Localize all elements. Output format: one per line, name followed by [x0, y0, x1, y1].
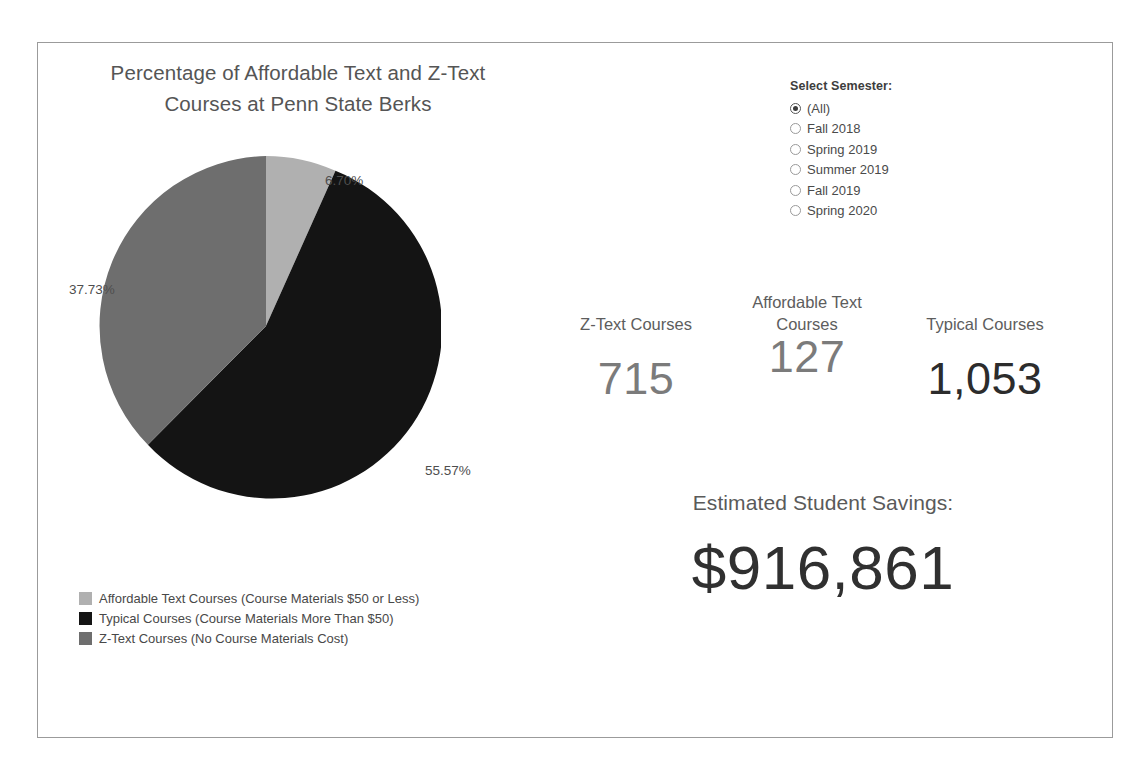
semester-radio-label: Fall 2019: [807, 183, 860, 198]
legend-swatch-icon: [79, 612, 92, 625]
pie-chart-panel: 6.70% 37.73% 55.57%: [38, 143, 558, 563]
semester-radio-label: Spring 2020: [807, 203, 877, 218]
legend-swatch-icon: [79, 632, 92, 645]
legend: Affordable Text Courses (Course Material…: [79, 589, 419, 649]
estimated-student-savings: Estimated Student Savings: $916,861: [538, 491, 1108, 607]
legend-label: Typical Courses (Course Materials More T…: [99, 611, 394, 626]
kpi-typical-courses: Typical Courses 1,053: [890, 313, 1080, 407]
semester-radio-label: Spring 2019: [807, 142, 877, 157]
kpi-value: 1,053: [890, 351, 1080, 407]
kpi-label: Z-Text Courses: [548, 313, 724, 335]
pie-label-z-text: 37.73%: [69, 282, 115, 297]
legend-label: Affordable Text Courses (Course Material…: [99, 591, 419, 606]
semester-radio-label: Summer 2019: [807, 162, 889, 177]
pie-label-typical: 55.57%: [425, 463, 471, 478]
radio-unselected-icon: [790, 164, 801, 175]
legend-item-affordable-text[interactable]: Affordable Text Courses (Course Material…: [79, 589, 419, 607]
pie-chart[interactable]: [91, 151, 441, 501]
semester-filter-title: Select Semester:: [790, 79, 1010, 93]
page-title: Percentage of Affordable Text and Z-Text…: [58, 57, 538, 119]
legend-label: Z-Text Courses (No Course Materials Cost…: [99, 631, 348, 646]
semester-radio-label: (All): [807, 101, 830, 116]
legend-item-typical[interactable]: Typical Courses (Course Materials More T…: [79, 609, 419, 627]
dashboard-frame: Percentage of Affordable Text and Z-Text…: [37, 42, 1113, 738]
semester-radio-spring-2019[interactable]: Spring 2019: [790, 139, 1010, 160]
title-line-2: Courses at Penn State Berks: [58, 88, 538, 119]
radio-unselected-icon: [790, 144, 801, 155]
semester-radio-summer-2019[interactable]: Summer 2019: [790, 160, 1010, 181]
legend-swatch-icon: [79, 592, 92, 605]
savings-value: $916,861: [538, 529, 1108, 607]
semester-filter: Select Semester: (All) Fall 2018 Spring …: [790, 79, 1010, 221]
savings-label: Estimated Student Savings:: [538, 491, 1108, 515]
semester-radio-spring-2020[interactable]: Spring 2020: [790, 201, 1010, 222]
title-line-1: Percentage of Affordable Text and Z-Text: [58, 57, 538, 88]
kpi-z-text-courses: Z-Text Courses 715: [548, 313, 724, 407]
semester-radio-fall-2018[interactable]: Fall 2018: [790, 119, 1010, 140]
radio-selected-icon: [790, 103, 801, 114]
kpi-row: Z-Text Courses 715 Affordable Text Cours…: [538, 291, 1108, 426]
radio-unselected-icon: [790, 123, 801, 134]
semester-radio-all[interactable]: (All): [790, 98, 1010, 119]
semester-radio-fall-2019[interactable]: Fall 2019: [790, 180, 1010, 201]
kpi-affordable-text-courses: Affordable Text Courses 127: [724, 291, 890, 385]
kpi-value: 127: [724, 329, 890, 385]
radio-unselected-icon: [790, 205, 801, 216]
kpi-label: Typical Courses: [890, 313, 1080, 335]
kpi-label-line-1: Affordable Text: [724, 291, 890, 313]
radio-unselected-icon: [790, 185, 801, 196]
semester-radio-label: Fall 2018: [807, 121, 860, 136]
pie-label-affordable-text: 6.70%: [325, 173, 363, 188]
legend-item-z-text[interactable]: Z-Text Courses (No Course Materials Cost…: [79, 629, 419, 647]
kpi-value: 715: [548, 351, 724, 407]
